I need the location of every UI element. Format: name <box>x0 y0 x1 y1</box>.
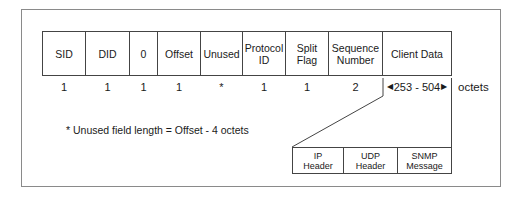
sub-field-snmp-message-label: SNMP Message <box>405 151 445 171</box>
sub-field-ip-header-label: IP Header <box>303 151 333 171</box>
sub-field-udp-header-label: UDP Header <box>355 151 387 171</box>
sub-field-udp-header: UDP Header <box>343 147 398 174</box>
sub-field-snmp-message: SNMP Message <box>397 147 452 174</box>
sub-field-ip-header: IP Header <box>292 147 344 174</box>
